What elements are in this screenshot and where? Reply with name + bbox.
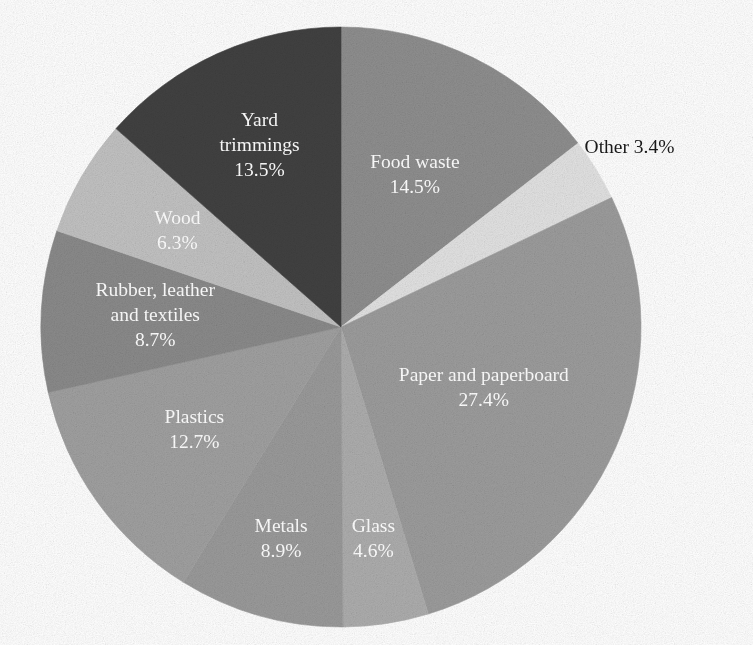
- pie-chart-svg: Food waste14.5%Other 3.4%Paper and paper…: [0, 0, 753, 645]
- pie-chart-figure: Food waste14.5%Other 3.4%Paper and paper…: [0, 0, 753, 645]
- slice-label-other: Other 3.4%: [585, 136, 675, 157]
- pie-slices: [41, 27, 641, 627]
